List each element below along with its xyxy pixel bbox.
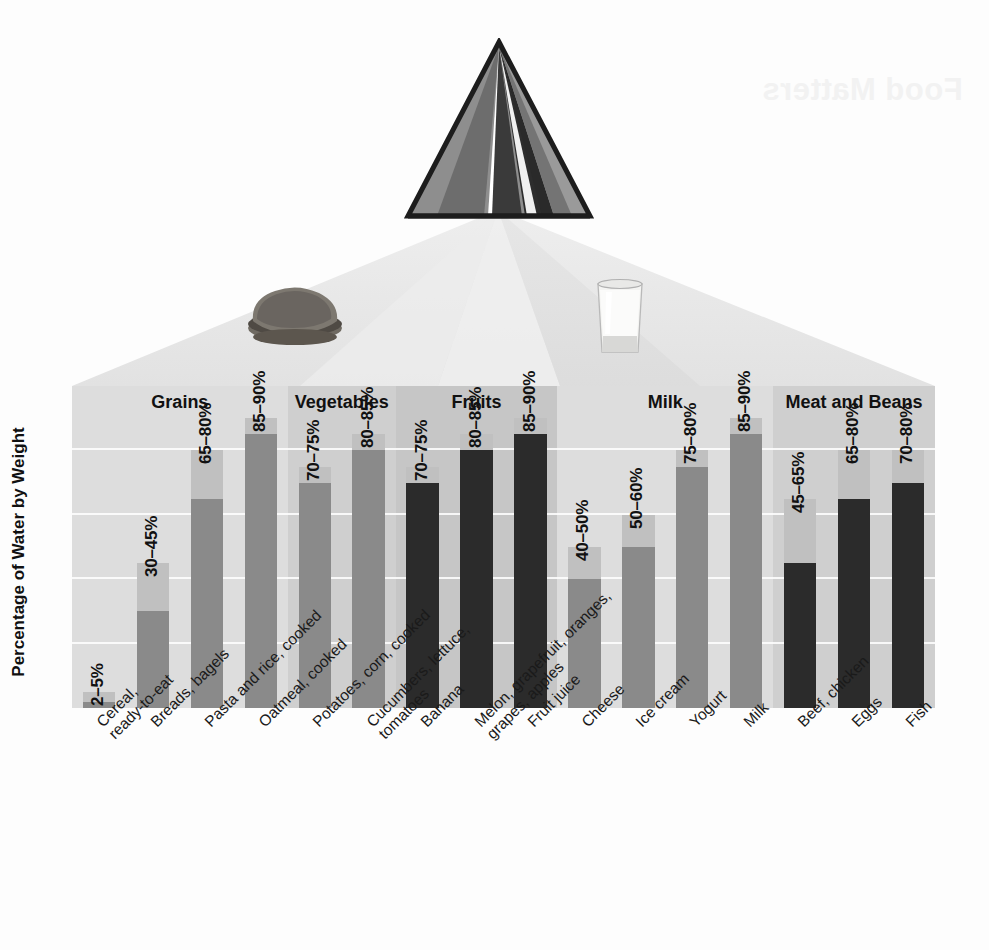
bar-milk[interactable] <box>730 418 762 708</box>
milk-glass-photo <box>588 274 652 358</box>
bar-value-label: 45–65% <box>789 451 809 512</box>
bar-lower-range-segment <box>622 547 654 708</box>
group-label-grains: Grains <box>72 392 288 413</box>
bar-lower-range-segment <box>460 450 492 708</box>
group-label-fruits: Fruits <box>396 392 558 413</box>
y-axis-title: Percentage of Water by Weight <box>8 392 30 692</box>
group-label-meat-and-beans: Meat and Beans <box>773 392 935 413</box>
bar-value-label: 40–50% <box>573 500 593 561</box>
bar-beef-chicken[interactable] <box>784 499 816 708</box>
bar-series: 2–5%30–45%65–80%85–90%70–75%80–85%70–75%… <box>72 386 935 708</box>
group-label-milk: Milk <box>557 392 773 413</box>
bar-lower-range-segment <box>784 563 816 708</box>
bar-fish[interactable] <box>892 450 924 708</box>
x-axis-tick-labels: Cereal, ready-to-eatBreads, bagelsPasta … <box>0 712 989 942</box>
bar-value-label: 70–75% <box>304 419 324 480</box>
water-content-bar-chart: 2–5%30–45%65–80%85–90%70–75%80–85%70–75%… <box>72 386 935 708</box>
bar-value-label: 50–60% <box>627 468 647 529</box>
bar-melon-grapefruit-oranges-grapes-apples[interactable] <box>460 434 492 708</box>
bar-yogurt[interactable] <box>676 450 708 708</box>
food-guide-pyramid <box>404 38 594 222</box>
bar-ice-cream[interactable] <box>622 515 654 708</box>
y-axis-title-text: Percentage of Water by Weight <box>9 427 29 676</box>
bread-photo <box>241 281 349 347</box>
bar-lower-range-segment <box>892 483 924 708</box>
bar-value-label: 70–75% <box>412 419 432 480</box>
ghost-bleedthrough-heading: Food Matters <box>762 72 963 108</box>
bar-value-label: 2–5% <box>88 663 108 706</box>
group-label-vegetables: Vegetables <box>288 392 396 413</box>
bar-lower-range-segment <box>730 434 762 708</box>
bar-value-label: 30–45% <box>142 516 162 577</box>
